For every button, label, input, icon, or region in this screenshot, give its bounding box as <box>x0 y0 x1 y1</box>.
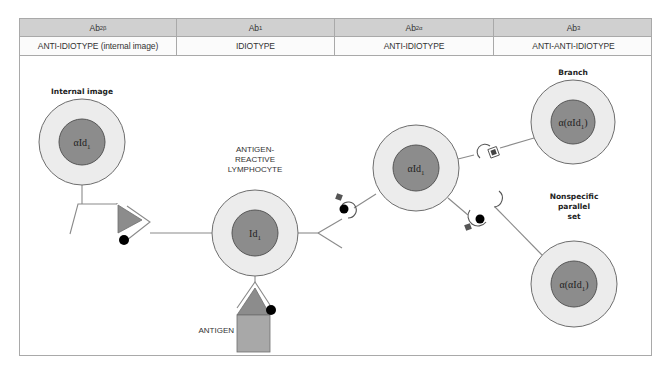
cell-antigen-reactive-lymphocyte: Id1 ANTIGEN- REACTIVE LYMPHOCYTE <box>212 145 298 276</box>
binding-dot-icon <box>266 305 276 315</box>
binding-dot-icon <box>119 235 129 245</box>
cell-caption: Internal image <box>51 87 113 96</box>
cell-caption-line-3: set <box>567 212 581 221</box>
internal-image-receptor <box>118 205 150 245</box>
binding-dot-icon <box>476 215 485 224</box>
open-socket-icon <box>494 191 502 207</box>
square-epitope-icon <box>464 223 472 231</box>
cell-anti-idiotype: αId1 <box>373 125 459 211</box>
cell-caption-line-1: ANTIGEN- <box>236 145 275 154</box>
branch-receptor <box>477 144 499 158</box>
antigen: ANTIGEN <box>198 282 276 352</box>
nonspecific-receptor <box>464 191 502 231</box>
cell3-left-receptor <box>335 193 356 218</box>
cell-caption-line-2: REACTIVE <box>235 155 275 164</box>
connector-lines <box>70 138 542 283</box>
cell-caption-line-2: parallel <box>558 202 590 211</box>
cell-internal-image: αId1 Internal image <box>39 87 125 185</box>
cell-caption-line-3: LYMPHOCYTE <box>228 165 283 174</box>
antigen-block-icon <box>237 315 270 352</box>
square-epitope-icon <box>335 193 343 201</box>
cell-caption-line-1: Nonspecific <box>550 192 599 201</box>
triangle-epitope-icon <box>118 205 142 233</box>
antigen-label: ANTIGEN <box>198 326 234 335</box>
idiotype-network-diagram: αId1 Internal image Id1 ANTIGEN- REACTIV… <box>0 0 666 373</box>
cell-caption: Branch <box>558 68 588 77</box>
cell-branch: α(αId1) Branch <box>531 68 615 164</box>
binding-dot-icon <box>340 205 349 214</box>
cell-nonspecific-parallel-set: α(αId1) Nonspecific parallel set <box>531 192 617 327</box>
